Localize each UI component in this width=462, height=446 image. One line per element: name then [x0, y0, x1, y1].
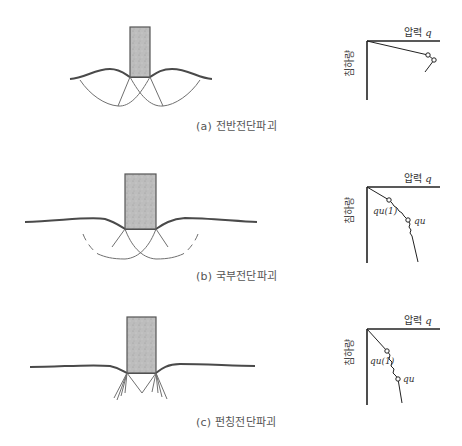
load-settlement-graph-b — [367, 187, 440, 263]
caption-c: (c) 펀칭전단파괴 — [196, 413, 276, 429]
x-axis-symbol: q — [425, 27, 431, 38]
footing-diagram-a — [70, 27, 212, 106]
footing-block — [125, 174, 156, 229]
x-axis-title-text: 압력 — [404, 27, 422, 38]
y-axis-title-b: 침하량 — [341, 197, 356, 224]
x-axis-title-c: 압력 q — [404, 312, 432, 327]
footing-diagram-b — [25, 174, 257, 259]
footing-block — [127, 317, 156, 373]
point-label-qu-c: qu — [403, 374, 415, 384]
caption-a: (a) 전반전단파괴 — [196, 117, 277, 133]
load-settlement-graph-c — [367, 329, 440, 405]
x-axis-title-text: 압력 — [404, 173, 422, 184]
footing-block — [130, 27, 150, 77]
point-label-qu-b: qu — [414, 216, 426, 226]
x-axis-title-text: 압력 — [404, 315, 422, 326]
point-label-qu1-b: qu(1) — [373, 206, 397, 216]
failure-modes-diagram — [0, 0, 462, 446]
x-axis-symbol: q — [425, 315, 431, 326]
load-settlement-graph-a — [367, 41, 440, 100]
x-axis-symbol: q — [425, 173, 431, 184]
dashed-slip-right — [183, 234, 198, 254]
y-axis-title-c: 침하량 — [341, 339, 356, 366]
x-axis-title-a: 압력 q — [404, 24, 432, 39]
point-label-qu1-c: qu(1) — [370, 356, 394, 366]
y-axis-title-a: 침하량 — [341, 50, 356, 77]
footing-diagram-c — [30, 317, 255, 400]
dashed-slip-left — [83, 234, 98, 254]
caption-b: (b) 국부전단파괴 — [196, 267, 277, 283]
x-axis-title-b: 압력 q — [404, 170, 432, 185]
